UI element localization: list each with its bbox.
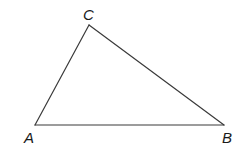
vertex-label-a: A [23, 129, 34, 146]
edge-bc [89, 25, 224, 125]
vertex-label-b: B [222, 129, 232, 146]
vertex-label-c: C [83, 6, 94, 23]
triangle-diagram: A B C [0, 0, 250, 157]
edge-ca [35, 25, 89, 125]
triangle [35, 25, 224, 125]
